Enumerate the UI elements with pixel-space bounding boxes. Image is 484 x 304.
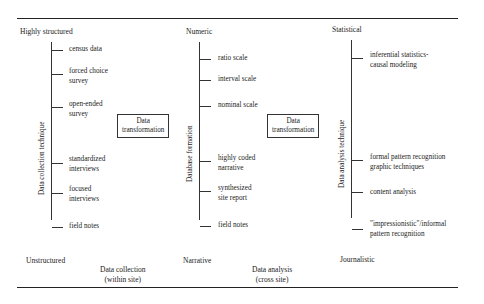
- tick: [352, 229, 363, 230]
- tick: [200, 106, 211, 107]
- stage-data-collection: Data collection (within site): [100, 265, 146, 285]
- tick: [200, 191, 211, 192]
- tick-label: census data: [69, 45, 102, 55]
- bottom-rule: [17, 287, 458, 288]
- top-rule: [17, 18, 458, 19]
- tick-label: "impressionistic"/informal pattern recog…: [370, 220, 446, 239]
- tick-label: formal pattern recognition graphic techn…: [370, 153, 445, 172]
- tick-label: synthesized site report: [218, 184, 252, 203]
- tick: [52, 227, 63, 228]
- analysis-bottom-label: Journalistic: [340, 255, 375, 264]
- tick-label: focused interviews: [69, 185, 99, 204]
- tick: [52, 50, 63, 51]
- database-bottom-label: Narrative: [183, 256, 211, 265]
- tick: [52, 107, 63, 108]
- database-axis: [199, 42, 200, 220]
- tick: [52, 163, 63, 164]
- tick: [52, 193, 63, 194]
- tick: [352, 160, 363, 161]
- stage-data-analysis: Data analysis (cross site): [252, 265, 292, 285]
- collection-bottom-label: Unstructured: [26, 256, 65, 265]
- tick-label: content analysis: [370, 188, 416, 198]
- database-top-label: Numeric: [186, 27, 212, 36]
- data-transformation-box-1: Data transformation: [117, 114, 169, 138]
- tick: [52, 74, 63, 75]
- analysis-axis-label: Data analysis technique: [338, 120, 346, 188]
- tick-label: open-ended survey: [69, 100, 103, 119]
- tick: [352, 192, 363, 193]
- tick-label: standardized interviews: [69, 155, 105, 174]
- collection-axis-label: Data collection technique: [38, 122, 46, 195]
- collection-top-label: Highly structured: [20, 27, 73, 36]
- data-transformation-box-2: Data transformation: [267, 114, 319, 138]
- tick-label: field notes: [69, 222, 99, 232]
- tick-label: nominal scale: [218, 101, 258, 111]
- analysis-top-label: Statistical: [332, 25, 362, 34]
- tick: [200, 80, 211, 81]
- tick-label: field notes: [218, 221, 248, 231]
- tick: [200, 226, 211, 227]
- tick: [200, 161, 211, 162]
- tick: [200, 59, 211, 60]
- tick-label: ratio scale: [218, 54, 247, 64]
- tick-label: forced choice survey: [69, 67, 108, 86]
- tick-label: inferential statistics- causal modeling: [370, 51, 428, 70]
- tick-label: highly coded narrative: [218, 154, 255, 173]
- tick: [352, 58, 363, 59]
- tick-label: interval scale: [218, 75, 256, 85]
- database-axis-label: Database formation: [186, 126, 194, 182]
